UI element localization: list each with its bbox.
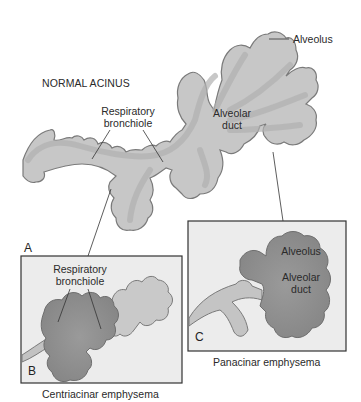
panel-c-alveolar-duct-label: Alveolar duct [276, 271, 326, 295]
connector-line-to-b [88, 189, 111, 256]
respiratory-bronchiole-shape [23, 32, 318, 230]
respiratory-bronchiole-label: Respiratory bronchiole [98, 105, 158, 129]
alveolar-duct-label: Alveolar duct [207, 107, 257, 131]
acinus-diagram [0, 0, 361, 402]
panel-a-title: NORMAL ACINUS [42, 77, 130, 89]
panel-b-caption: Centriacinar emphysema [42, 388, 159, 400]
alveolus-label: Alveolus [293, 33, 333, 45]
panel-c-alveolus-label: Alveolus [276, 245, 326, 257]
connector-line-to-c [273, 152, 283, 221]
panel-b-respiratory-bronchiole-label: Respiratory bronchiole [50, 263, 110, 287]
panel-b-letter: B [28, 364, 36, 378]
panel-a-letter: A [24, 241, 32, 255]
panel-c-caption: Panacinar emphysema [213, 356, 320, 368]
panel-c-letter: C [195, 330, 204, 344]
